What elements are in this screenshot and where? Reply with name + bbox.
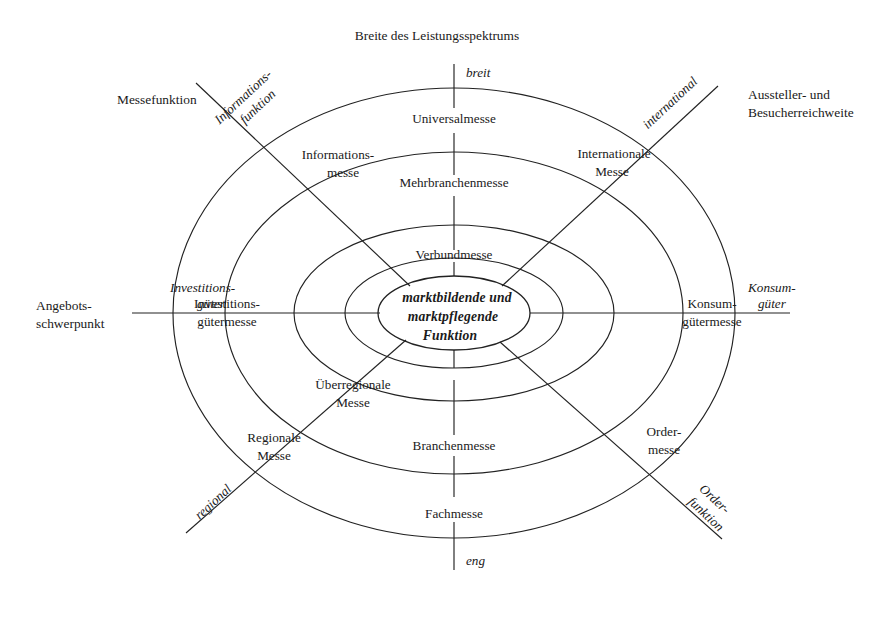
- core-label-line1: marktbildende und: [402, 290, 512, 305]
- sector-label-investitionsguetermesse-line2: gütermesse: [197, 314, 256, 329]
- sector-label-ueberregionale-messe-line1: Überregionale: [315, 377, 391, 392]
- sector-label-universalmesse: Universalmesse: [412, 111, 496, 126]
- axis-pole-investitionsgueter-line1: Investitions-: [169, 280, 235, 295]
- core-label-line2: marktpflegende: [408, 309, 498, 324]
- sector-label-internationale-messe-line2: Messe: [595, 164, 629, 179]
- sector-label-konsumguetermesse-line2: gütermesse: [682, 314, 741, 329]
- axis-pole-konsumgueter-line1: Konsum-: [747, 280, 796, 295]
- sector-label-investitionsguetermesse-line1: Investitions-: [194, 296, 260, 311]
- axis-name-messefunktion: Messefunktion: [117, 92, 197, 107]
- axis-name-angebotsschwerpunkt-line2: schwerpunkt: [36, 316, 105, 331]
- core-label-line3: Funktion: [422, 328, 478, 343]
- sector-label-informationsmesse-line2: messe: [327, 165, 359, 180]
- figure-title: Breite des Leistungsspektrums: [355, 28, 519, 43]
- sector-label-branchenmesse: Branchenmesse: [413, 438, 496, 453]
- sector-label-ueberregionale-messe-line2: Messe: [336, 395, 370, 410]
- sector-label-ordermesse-line1: Order-: [647, 424, 682, 439]
- messe-typology-diagram: Breite des Leistungsspektrums breit eng …: [0, 0, 874, 617]
- sector-label-konsumguetermesse-line1: Konsum-: [687, 296, 736, 311]
- axis-name-angebotsschwerpunkt-line1: Angebots-: [36, 298, 92, 313]
- sector-label-regionale-messe-line2: Messe: [257, 448, 291, 463]
- sector-label-mehrbranchenmesse: Mehrbranchenmesse: [399, 175, 508, 190]
- concentric-ellipse-figure: Breite des Leistungsspektrums breit eng …: [0, 0, 874, 617]
- sector-label-ordermesse-line2: messe: [648, 442, 680, 457]
- sector-label-informationsmesse-line1: Informations-: [302, 147, 375, 162]
- axis-pole-regional: regional: [192, 481, 235, 522]
- axis-pole-breit: breit: [466, 65, 491, 80]
- sector-label-regionale-messe-line1: Regionale: [247, 430, 301, 445]
- axis-pole-eng: eng: [466, 553, 485, 568]
- axis-diagonal-se: [500, 342, 722, 539]
- sector-label-fachmesse: Fachmesse: [425, 506, 483, 521]
- axis-pole-konsumgueter-line2: güter: [758, 296, 787, 311]
- sector-label-verbundmesse: Verbundmesse: [416, 247, 493, 262]
- sector-label-internationale-messe-line1: Internationale: [577, 146, 650, 161]
- axis-name-reichweite-line1: Aussteller- und: [748, 87, 830, 102]
- axis-name-reichweite-line2: Besucherreichweite: [748, 105, 854, 120]
- axis-pole-international: international: [640, 74, 701, 132]
